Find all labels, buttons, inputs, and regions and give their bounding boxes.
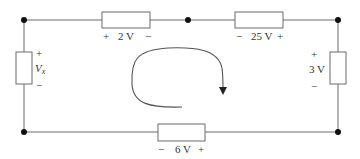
circuit-diagram: + 2 V − − 25 V + + Vx − + 3 V − − 6 V + [0, 0, 360, 159]
element-3v [330, 52, 346, 84]
label-3v-plus: + [311, 48, 317, 60]
node-bottom-right [335, 129, 341, 135]
label-2v-value: 2 V [118, 30, 134, 42]
label-25v-minus: − [236, 30, 242, 42]
element-vx [16, 52, 32, 84]
node-top-left [21, 17, 27, 23]
label-2v-plus: + [103, 30, 109, 42]
element-6v [158, 124, 205, 141]
label-25v-plus: + [277, 30, 283, 42]
label-6v-plus: + [198, 143, 204, 155]
label-vx-minus: − [36, 79, 42, 91]
element-2v [102, 12, 150, 28]
node-top-middle [185, 17, 191, 23]
label-3v-minus: − [311, 80, 317, 92]
loop-direction-arrow [132, 48, 223, 107]
label-6v-minus: − [158, 143, 164, 155]
label-25v-value: 25 V [251, 30, 273, 42]
label-3v-value: 3 V [309, 63, 325, 75]
element-25v [235, 12, 283, 28]
arrowhead-icon [219, 87, 227, 95]
label-vx-plus: + [36, 47, 42, 59]
label-vx-main: Vx [35, 62, 46, 76]
node-top-right [335, 17, 341, 23]
node-bottom-left [21, 129, 27, 135]
label-6v-value: 6 V [175, 143, 191, 155]
label-2v-minus: − [145, 30, 151, 42]
